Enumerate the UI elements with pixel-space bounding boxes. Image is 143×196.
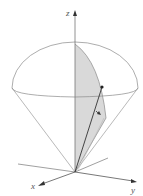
point-on-sphere [100, 85, 103, 88]
y-axis-label: y [130, 185, 135, 195]
z-axis-arrow-icon [73, 10, 77, 16]
x-axis-label: x [30, 181, 35, 191]
x-axis [42, 172, 75, 184]
y-axis [75, 172, 133, 181]
shaded-slice [75, 44, 106, 172]
z-axis-label: z [65, 8, 70, 18]
x-axis-arrow-icon [38, 181, 45, 186]
y-axis-arrow-icon [131, 179, 137, 183]
x-axis-back [18, 164, 75, 172]
cone-side-left [12, 88, 75, 172]
ice-cream-cone-diagram: z x y [0, 0, 143, 196]
